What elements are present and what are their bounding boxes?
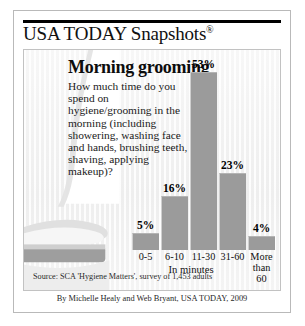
- source-note: Source: SCA 'Hygiene Matters', survey of…: [33, 272, 212, 281]
- bar-4: [248, 236, 275, 250]
- bar-1: [161, 196, 188, 250]
- snapshot-frame: USA TODAY Snapshots® Morning grooming Ho…: [13, 10, 291, 313]
- bar-value-2: 53%: [192, 58, 215, 70]
- bar-chart: 5% 16% 53% 23% 4%: [132, 62, 278, 262]
- bar-3: [219, 173, 246, 250]
- masthead-title-text: USA TODAY Snapshots: [23, 23, 206, 44]
- registered-trademark-icon: ®: [206, 24, 213, 35]
- category-label-4: More than 60: [248, 252, 275, 284]
- snapshot-panel: Morning grooming How much time do you sp…: [23, 49, 281, 291]
- category-label-2: 11-30: [190, 252, 217, 263]
- category-label-1: 6-10: [161, 252, 188, 263]
- bar-value-1: 16%: [163, 182, 186, 194]
- bar-value-4: 4%: [253, 222, 270, 234]
- chart-plot-area: 5% 16% 53% 23% 4%: [132, 62, 278, 250]
- byline: By Michelle Healy and Web Bryant, USA TO…: [14, 294, 290, 303]
- masthead-title: USA TODAY Snapshots®: [23, 23, 214, 45]
- bar-2: [190, 72, 217, 250]
- bar-value-3: 23%: [221, 159, 244, 171]
- category-label-0: 0-5: [132, 252, 159, 263]
- category-label-3: 31-60: [219, 252, 246, 263]
- bar-0: [132, 233, 159, 250]
- bar-value-0: 5%: [137, 219, 154, 231]
